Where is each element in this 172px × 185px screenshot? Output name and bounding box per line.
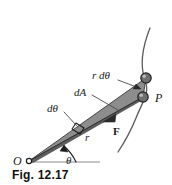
label-theta: θ bbox=[66, 155, 71, 166]
label-radius: r bbox=[85, 132, 89, 143]
orbit-node-icon bbox=[141, 73, 151, 83]
figure-caption: Fig. 12.17 bbox=[12, 168, 69, 182]
orbit-node-p-icon bbox=[138, 92, 148, 102]
leader-line-dtheta bbox=[64, 112, 77, 126]
orbit-node-highlight bbox=[142, 74, 146, 78]
figure-12-17: r dθ dA dθ P r F θ O Fig. 12.17 bbox=[0, 0, 172, 185]
orbit-node-p-highlight bbox=[139, 93, 143, 97]
differential-area-wedge bbox=[29, 78, 146, 161]
label-da: dA bbox=[74, 87, 86, 98]
label-dtheta: dθ bbox=[47, 103, 58, 114]
label-force: F bbox=[113, 126, 120, 137]
origin-pin-icon bbox=[26, 158, 31, 163]
label-origin: O bbox=[13, 155, 22, 167]
label-point-p: P bbox=[155, 92, 162, 104]
label-r-dtheta: r dθ bbox=[92, 70, 110, 81]
